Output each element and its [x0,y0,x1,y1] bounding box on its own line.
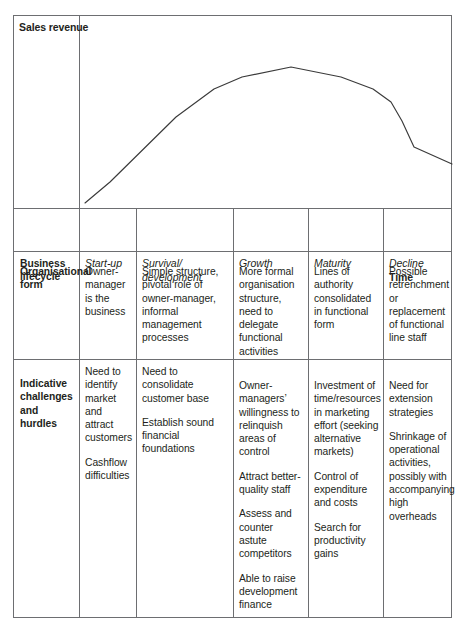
cell-paragraph: Lines of authority consolidated in funct… [314,265,378,331]
cell-challenges-survival: Need to consolidate customer base Establ… [142,365,228,456]
cell-paragraph: Shrinkage of operational activities, pos… [389,430,451,523]
cell-paragraph: Possible retrenchment or replacement of … [389,265,449,345]
row-label-line2: challenges [20,390,82,403]
row-label-organisational-form: Organisational form [20,265,82,292]
cell-paragraph: More formal organisation structure, need… [239,265,303,358]
cell-challenges-decline: Need for extension strategies Shrinkage … [389,379,451,523]
column-divider-2 [136,208,137,617]
sales-revenue-chart: Sales revenue [14,16,453,208]
row-label-line3: and [20,404,82,417]
row-divider-header [14,251,451,252]
row-label-line2: form [20,278,82,291]
cell-orgform-survival: Simple structure, pivotal role of owner-… [142,265,228,345]
column-divider-4 [308,208,309,617]
revenue-curve-svg [14,16,453,208]
cell-paragraph: Need to identify market and attract cust… [85,365,131,445]
cell-paragraph: Search for productivity gains [314,521,380,561]
cell-paragraph: Establish sound financial foundations [142,416,228,456]
figure-root: Sales revenue Business lifecycle Start-u… [0,0,459,624]
column-divider-5 [383,208,384,617]
cell-paragraph: Simple structure, pivotal role of owner-… [142,265,228,345]
row-label-line4: hurdles [20,417,82,430]
cell-orgform-growth: More formal organisation structure, need… [239,265,303,358]
cell-paragraph: Control of expenditure and costs [314,470,380,510]
cell-paragraph: Owner-managers’ willingness to relinquis… [239,379,303,459]
row-divider-chart [14,208,451,209]
cell-paragraph: Cashflow difficulties [85,456,131,483]
lifecycle-table: Sales revenue Business lifecycle Start-u… [13,15,452,618]
row-label-line1: Indicative [20,377,82,390]
cell-paragraph: Owner-manager is the business [85,265,131,318]
row-label-line1: Organisational [20,265,82,278]
cell-paragraph: Assess and counter astute competitors [239,507,303,560]
cropped-text-artifact [0,0,459,6]
cell-paragraph: Able to raise development finance [239,572,303,612]
cell-challenges-start-up: Need to identify market and attract cust… [85,365,131,482]
cell-challenges-maturity: Investment of time/resources in marketin… [314,379,380,561]
cell-challenges-growth: Owner-managers’ willingness to relinquis… [239,379,303,611]
cell-orgform-maturity: Lines of authority consolidated in funct… [314,265,378,331]
revenue-curve [85,67,452,203]
cell-orgform-decline: Possible retrenchment or replacement of … [389,265,449,345]
cell-paragraph: Need to consolidate customer base [142,365,228,405]
column-divider-3 [233,208,234,617]
cell-paragraph: Need for extension strategies [389,379,451,419]
cell-orgform-start-up: Owner-manager is the business [85,265,131,318]
row-divider-orgform [14,359,451,360]
cell-paragraph: Investment of time/resources in marketin… [314,379,380,459]
cell-paragraph: Attract better-quality staff [239,470,303,497]
row-label-indicative-challenges: Indicative challenges and hurdles [20,377,82,430]
